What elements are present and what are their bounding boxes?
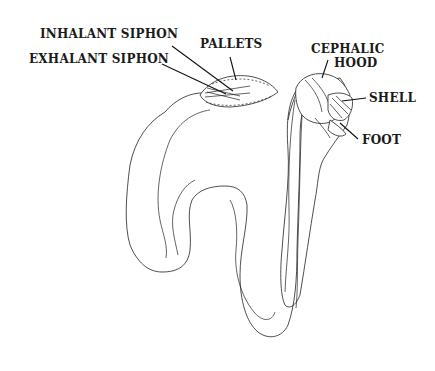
label-foot: FOOT bbox=[362, 134, 401, 147]
label-pallets: PALLETS bbox=[200, 38, 262, 51]
diagram-canvas: INHALANT SIPHON EXHALANT SIPHON PALLETS … bbox=[0, 0, 435, 371]
label-cephalic-hood-line1: CEPHALIC bbox=[311, 43, 385, 56]
label-exhalant-siphon: EXHALANT SIPHON bbox=[29, 53, 169, 66]
label-shell: SHELL bbox=[369, 92, 416, 105]
leader-inhalant bbox=[172, 46, 233, 91]
label-inhalant-siphon: INHALANT SIPHON bbox=[40, 28, 178, 41]
label-cephalic-hood-line2: HOOD bbox=[334, 57, 377, 70]
pallets bbox=[200, 76, 278, 107]
